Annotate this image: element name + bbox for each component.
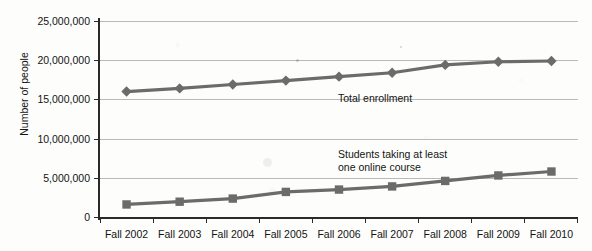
x-tick-mark <box>100 217 101 223</box>
x-axis: Fall 2002Fall 2003Fall 2004Fall 2005Fall… <box>100 228 578 244</box>
x-tick-label: Fall 2007 <box>371 228 414 240</box>
data-point <box>547 167 555 175</box>
series-layer <box>100 21 578 217</box>
data-point <box>282 188 290 196</box>
y-tick-label: 0 <box>84 211 90 223</box>
data-point <box>334 71 344 81</box>
data-point <box>546 56 556 66</box>
x-axis-line <box>98 217 578 219</box>
data-point <box>441 177 449 185</box>
x-tick-mark <box>418 217 419 223</box>
data-point <box>494 171 502 179</box>
x-tick-label: Fall 2003 <box>158 228 201 240</box>
x-tick-label: Fall 2008 <box>424 228 467 240</box>
y-axis: Number of people 25,000,000 20,000,000 1… <box>0 0 96 251</box>
data-point <box>281 75 291 85</box>
y-axis-label: Number of people <box>18 34 30 154</box>
data-point <box>122 200 130 208</box>
annotation-online-course-line1: Students taking at least <box>338 148 447 161</box>
data-point <box>121 86 131 96</box>
data-point <box>335 185 343 193</box>
y-tick-label: 20,000,000 <box>37 54 90 66</box>
y-tick-label: 15,000,000 <box>37 93 90 105</box>
data-point <box>175 198 183 206</box>
x-tick-mark <box>153 217 154 223</box>
y-tick-label: 10,000,000 <box>37 133 90 145</box>
x-tick-label: Fall 2004 <box>211 228 254 240</box>
data-point <box>387 68 397 78</box>
x-tick-mark <box>312 217 313 223</box>
x-tick-label: Fall 2009 <box>477 228 520 240</box>
data-point <box>174 83 184 93</box>
data-point <box>229 194 237 202</box>
x-tick-label: Fall 2002 <box>105 228 148 240</box>
data-point <box>493 57 503 67</box>
x-tick-mark <box>365 217 366 223</box>
plot-area <box>100 21 578 217</box>
x-tick-label: Fall 2006 <box>317 228 360 240</box>
data-point <box>388 182 396 190</box>
x-tick-mark <box>577 217 578 223</box>
annotation-total-enrollment: Total enrollment <box>338 92 412 105</box>
y-tick-label: 5,000,000 <box>43 172 90 184</box>
y-tick-label: 25,000,000 <box>37 15 90 27</box>
x-tick-label: Fall 2010 <box>530 228 573 240</box>
annotation-online-course: Students taking at least one online cour… <box>338 148 447 173</box>
x-tick-mark <box>206 217 207 223</box>
line-chart: Number of people 25,000,000 20,000,000 1… <box>0 0 592 251</box>
annotation-online-course-line2: one online course <box>338 161 447 174</box>
x-tick-label: Fall 2005 <box>264 228 307 240</box>
data-point <box>440 60 450 70</box>
x-tick-mark <box>259 217 260 223</box>
data-point <box>228 79 238 89</box>
x-tick-mark <box>471 217 472 223</box>
x-tick-mark <box>524 217 525 223</box>
